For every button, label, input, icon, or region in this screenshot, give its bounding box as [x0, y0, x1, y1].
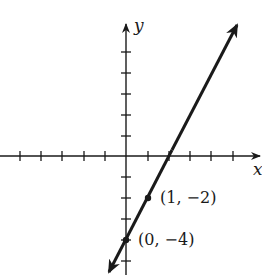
point-1-neg2-label: (1, −2)	[160, 188, 216, 207]
point-1-neg2	[145, 195, 151, 201]
x-axis	[0, 151, 260, 161]
y-axis-label: y	[134, 15, 144, 35]
point-0-neg4-label: (0, −4)	[138, 230, 194, 249]
coordinate-plane	[0, 0, 262, 275]
x-axis-label: x	[253, 159, 262, 179]
point-0-neg4	[123, 237, 129, 243]
